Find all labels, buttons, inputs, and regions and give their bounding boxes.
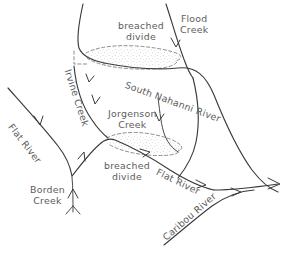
label-flood-creek: Flood Creek	[180, 13, 208, 35]
label-jorgenson-creek-line2: Creek	[108, 119, 157, 130]
flat-river-junction-arrow	[78, 152, 85, 161]
flat-river-upper-arrow	[34, 116, 43, 125]
label-flood-creek-line1: Flood	[180, 13, 208, 24]
irvine-creek-arrow	[92, 95, 100, 104]
label-breached-divide-upper-line2: divide	[118, 31, 164, 42]
irvine-creek-arrow-2	[86, 74, 94, 82]
label-breached-divide-upper-line1: breached	[118, 20, 164, 31]
label-borden-creek: Borden Creek	[30, 184, 65, 206]
label-breached-divide-lower-line2: divide	[104, 171, 150, 182]
label-flood-creek-line2: Creek	[180, 24, 208, 35]
label-borden-creek-line1: Borden	[30, 184, 65, 195]
label-borden-creek-line2: Creek	[30, 195, 65, 206]
drainage-sketch-map: breached divide Flood Creek South Nahann…	[0, 0, 287, 254]
label-jorgenson-creek: Jorgenson Creek	[108, 108, 157, 130]
borden-creek-fork	[66, 206, 73, 214]
breached-divide-lower-band	[105, 132, 182, 155]
borden-creek-fork-2	[73, 206, 80, 214]
breached-divide-upper-band	[74, 46, 181, 70]
label-breached-divide-lower: breached divide	[104, 160, 150, 182]
south-nahanni-river-branch-line	[178, 78, 198, 178]
label-jorgenson-creek-line1: Jorgenson	[108, 108, 157, 119]
label-breached-divide-upper: breached divide	[118, 20, 164, 42]
label-breached-divide-lower-line1: breached	[104, 160, 150, 171]
